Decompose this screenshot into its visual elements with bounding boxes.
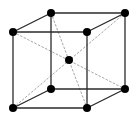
atom-front-top-right: [83, 28, 91, 36]
cube-edge-line: [13, 13, 51, 32]
cube-edge-line: [87, 89, 125, 108]
atom-front-bottom-left: [9, 104, 17, 112]
atom-back-top-right: [121, 9, 129, 17]
atom-back-top-left: [47, 9, 55, 17]
bcc-unit-cell-diagram: [0, 0, 140, 120]
atom-back-bottom-left: [47, 85, 55, 93]
atom-front-top-left: [9, 28, 17, 36]
atom-back-bottom-right: [121, 85, 129, 93]
atom-body-center: [65, 56, 73, 64]
atom-front-bottom-right: [83, 104, 91, 112]
